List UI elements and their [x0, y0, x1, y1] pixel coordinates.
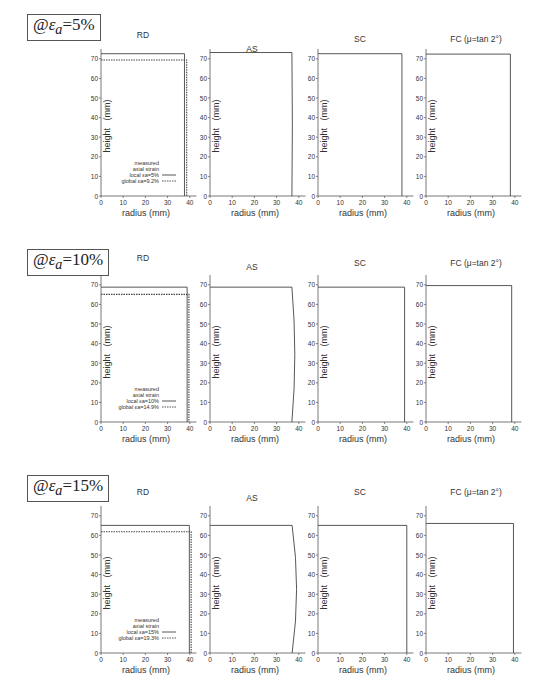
y-tick-label: 20 — [416, 610, 424, 617]
y-tick-label: 10 — [200, 173, 208, 180]
x-tick-label: 0 — [316, 199, 320, 206]
x-axis-label: radius (mm) — [122, 665, 170, 675]
y-tick-label: 40 — [416, 571, 424, 578]
y-axis-label: height (mm) — [211, 325, 221, 378]
y-tick-label: 30 — [91, 360, 99, 367]
chart-panel-1-2: 010203040506070010203040radius (mm)heigh… — [200, 44, 306, 218]
y-tick-label: 20 — [91, 610, 99, 617]
x-tick-label: 30 — [273, 199, 281, 206]
y-tick-label: 50 — [91, 95, 99, 102]
x-tick-label: 0 — [316, 425, 320, 432]
x-tick-label: 20 — [251, 425, 259, 432]
chart-grid: 010203040506070010203040radius (mm)heigh… — [0, 0, 538, 694]
x-tick-label: 40 — [403, 199, 411, 206]
chart-panel-1-4: 010203040506070010203040radius (mm)heigh… — [416, 34, 522, 218]
x-tick-label: 30 — [489, 199, 497, 206]
y-tick-label: 40 — [91, 571, 99, 578]
y-tick-label: 70 — [91, 55, 99, 62]
chart-title: RD — [137, 30, 149, 40]
y-axis-label: height (mm) — [211, 99, 221, 152]
chart-panel-3-1: 010203040506070010203040radius (mm)heigh… — [91, 487, 197, 675]
y-tick-label: 40 — [91, 114, 99, 121]
x-tick-label: 30 — [381, 425, 389, 432]
x-tick-label: 20 — [359, 656, 367, 663]
legend-entry: global εa=9.2% — [122, 178, 160, 184]
x-axis-label: radius (mm) — [231, 434, 279, 444]
y-tick-label: 60 — [200, 301, 208, 308]
x-tick-label: 40 — [186, 199, 194, 206]
x-axis-label: radius (mm) — [231, 208, 279, 218]
x-tick-label: 10 — [229, 199, 237, 206]
x-axis-label: radius (mm) — [339, 434, 387, 444]
y-tick-label: 0 — [311, 650, 315, 657]
profile-line — [210, 53, 292, 196]
y-tick-label: 40 — [200, 571, 208, 578]
y-tick-label: 30 — [91, 134, 99, 141]
x-tick-label: 40 — [511, 656, 519, 663]
y-tick-label: 70 — [200, 512, 208, 519]
x-tick-label: 10 — [120, 656, 128, 663]
y-tick-label: 30 — [308, 591, 316, 598]
y-tick-label: 60 — [308, 532, 316, 539]
y-tick-label: 20 — [200, 379, 208, 386]
x-tick-label: 0 — [99, 656, 103, 663]
x-tick-label: 30 — [381, 656, 389, 663]
y-tick-label: 50 — [200, 552, 208, 559]
y-tick-label: 70 — [200, 55, 208, 62]
y-tick-label: 50 — [308, 552, 316, 559]
y-tick-label: 60 — [416, 75, 424, 82]
chart-panel-2-2: 010203040506070010203040radius (mm)heigh… — [200, 262, 306, 444]
legend-entry: global εa=19.3% — [118, 635, 159, 641]
chart-panel-2-3: 010203040506070010203040radius (mm)heigh… — [308, 258, 414, 444]
chart-title: SC — [354, 258, 366, 268]
y-tick-label: 40 — [416, 340, 424, 347]
x-tick-label: 0 — [99, 425, 103, 432]
x-tick-label: 10 — [445, 199, 453, 206]
x-tick-label: 40 — [511, 199, 519, 206]
y-tick-label: 10 — [416, 399, 424, 406]
x-tick-label: 0 — [424, 425, 428, 432]
y-tick-label: 30 — [91, 591, 99, 598]
y-tick-label: 70 — [416, 281, 424, 288]
x-tick-label: 0 — [208, 199, 212, 206]
y-tick-label: 50 — [308, 95, 316, 102]
x-tick-label: 20 — [142, 425, 150, 432]
y-tick-label: 0 — [419, 193, 423, 200]
profile-line — [318, 287, 405, 422]
profile-line — [210, 525, 297, 653]
chart-panel-1-3: 010203040506070010203040radius (mm)heigh… — [308, 34, 414, 218]
y-tick-label: 40 — [308, 571, 316, 578]
x-tick-label: 10 — [229, 656, 237, 663]
y-tick-label: 10 — [308, 173, 316, 180]
y-tick-label: 10 — [308, 630, 316, 637]
y-tick-label: 0 — [94, 650, 98, 657]
y-tick-label: 60 — [91, 532, 99, 539]
y-tick-label: 70 — [308, 55, 316, 62]
x-tick-label: 10 — [229, 425, 237, 432]
y-tick-label: 70 — [416, 55, 424, 62]
x-tick-label: 40 — [295, 199, 303, 206]
y-tick-label: 70 — [416, 512, 424, 519]
x-tick-label: 40 — [295, 425, 303, 432]
x-axis-label: radius (mm) — [447, 434, 495, 444]
x-tick-label: 0 — [208, 425, 212, 432]
y-tick-label: 20 — [416, 379, 424, 386]
x-tick-label: 40 — [186, 656, 194, 663]
y-tick-label: 0 — [94, 193, 98, 200]
profile-line — [426, 54, 510, 196]
x-tick-label: 20 — [467, 656, 475, 663]
x-tick-label: 20 — [359, 425, 367, 432]
x-tick-label: 0 — [424, 656, 428, 663]
y-tick-label: 50 — [200, 95, 208, 102]
y-tick-label: 60 — [416, 532, 424, 539]
y-tick-label: 0 — [419, 419, 423, 426]
y-tick-label: 20 — [91, 379, 99, 386]
y-tick-label: 50 — [416, 95, 424, 102]
y-tick-label: 30 — [200, 360, 208, 367]
y-tick-label: 20 — [200, 153, 208, 160]
y-tick-label: 10 — [91, 399, 99, 406]
x-axis-label: radius (mm) — [447, 208, 495, 218]
x-tick-label: 10 — [337, 425, 345, 432]
x-tick-label: 0 — [316, 656, 320, 663]
y-tick-label: 30 — [200, 591, 208, 598]
